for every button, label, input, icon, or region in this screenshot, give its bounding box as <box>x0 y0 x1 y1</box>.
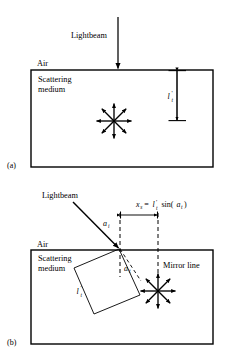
svg-text:t: t <box>172 97 174 103</box>
mean-free-path-label-a: l ' t <box>168 89 174 103</box>
scatter-starburst-a <box>97 104 132 139</box>
medium-label-b-line1: Scattering <box>38 254 72 263</box>
panel-b: Lightbeam Air Scattering medium Mirror l… <box>7 191 213 347</box>
lightbeam-arrow-b <box>73 202 119 248</box>
svg-text:=: = <box>144 200 149 209</box>
svg-text:': ' <box>81 284 82 291</box>
scatter-starburst-b <box>141 274 176 309</box>
svg-text:t: t <box>181 204 183 210</box>
svg-text:): ) <box>184 200 187 209</box>
panel-a: Lightbeam Air Scattering medium l ' t <box>7 17 213 170</box>
svg-text:': ' <box>172 89 173 96</box>
svg-text:x: x <box>135 200 140 209</box>
lightbeam-label-a: Lightbeam <box>71 31 107 40</box>
air-label-a: Air <box>37 59 48 68</box>
panel-label-b: (b) <box>7 338 17 347</box>
medium-label-b-line2: medium <box>38 264 66 273</box>
mirror-line-label: Mirror line <box>163 261 200 270</box>
svg-text:sin(: sin( <box>162 200 174 209</box>
svg-text:l: l <box>77 287 80 296</box>
path-construction-parallelogram <box>74 249 140 314</box>
svg-text:': ' <box>156 198 157 205</box>
figure-root: Lightbeam Air Scattering medium l ' t <box>0 0 227 360</box>
scattering-diagram-svg: Lightbeam Air Scattering medium l ' t <box>0 0 227 360</box>
xs-formula: x s = l ' t sin( a t ) <box>135 198 187 211</box>
panel-label-a: (a) <box>7 161 16 170</box>
svg-text:a: a <box>103 219 107 228</box>
svg-text:l: l <box>168 92 171 101</box>
lightbeam-label-b: Lightbeam <box>42 191 78 200</box>
svg-text:s: s <box>140 204 142 210</box>
medium-label-a-line1: Scattering <box>38 75 72 84</box>
svg-text:t: t <box>156 205 158 211</box>
air-label-b: Air <box>37 240 48 249</box>
xs-dimension-arrow <box>121 212 158 219</box>
medium-label-a-line2: medium <box>38 85 66 94</box>
svg-text:t: t <box>81 292 83 298</box>
incidence-angle-label: a i <box>103 219 110 229</box>
svg-text:a: a <box>177 200 181 209</box>
mean-free-path-label-b: l ' t <box>77 284 83 298</box>
svg-text:i: i <box>108 223 110 229</box>
